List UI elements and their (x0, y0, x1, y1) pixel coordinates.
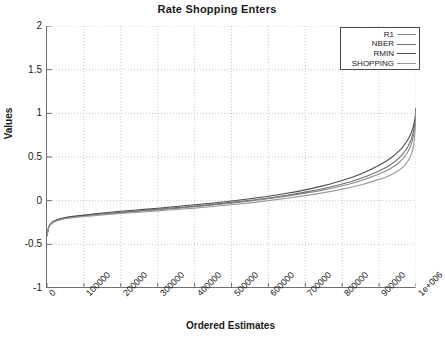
legend-item: RMIN (344, 49, 416, 59)
legend-item-line-sample (397, 44, 416, 45)
y-tick-label: 0 (2, 196, 42, 206)
y-tick-label: 2 (2, 21, 42, 31)
legend-item-line-sample (397, 34, 416, 35)
series-line-rmin (47, 109, 416, 236)
y-tick-label: 1.5 (2, 65, 42, 75)
y-axis-ticks: -1-0.500.511.52 (0, 26, 42, 288)
chart-title: Rate Shopping Enters (0, 3, 434, 15)
legend-item-label: R1 (384, 31, 394, 39)
legend-item: NBER (344, 40, 416, 50)
legend-item-line-sample (397, 63, 416, 64)
x-tick-label: 0 (47, 287, 58, 298)
legend-item: SHOPPING (344, 59, 416, 69)
legend-item-line-sample (397, 53, 416, 54)
x-axis-label: Ordered Estimates (46, 320, 415, 331)
legend-item-label: RMIN (374, 50, 394, 58)
chart-legend: R1NBERRMINSHOPPING (340, 27, 420, 70)
y-tick-label: -1 (2, 283, 42, 293)
legend-item-label: NBER (372, 40, 394, 48)
y-tick-label: -0.5 (2, 239, 42, 249)
y-tick-label: 0.5 (2, 152, 42, 162)
x-tick-label: 1e+006 (416, 270, 444, 298)
data-series (47, 109, 416, 236)
series-line-nber (47, 109, 416, 236)
legend-item: R1 (344, 30, 416, 40)
y-tick-label: 1 (2, 108, 42, 118)
legend-item-label: SHOPPING (352, 60, 394, 68)
series-line-r1 (47, 109, 416, 236)
